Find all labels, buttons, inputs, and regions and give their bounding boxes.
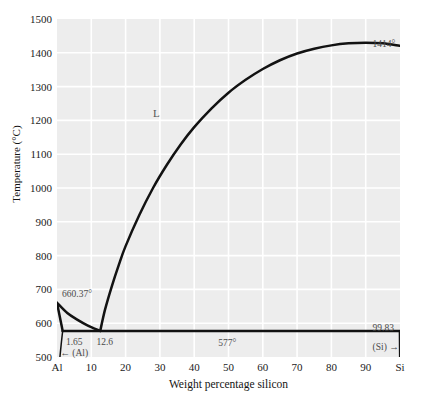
x-tick-50: 50: [223, 361, 234, 373]
y-tick-1400: 1400: [12, 47, 52, 59]
y-tick-1200: 1200: [12, 114, 52, 126]
y-axis-tick-labels: 500600700800900100011001200130014001500: [8, 19, 52, 357]
x-axis-tick-labels: Al102030405060708090Si: [57, 361, 400, 377]
curve-al-rich-liquidus: [57, 303, 100, 331]
x-axis-title: Weight percentage silicon: [57, 378, 400, 390]
x-tick-40: 40: [189, 361, 200, 373]
y-tick-900: 900: [12, 216, 52, 228]
x-tick-10: 10: [86, 361, 97, 373]
y-tick-1000: 1000: [12, 182, 52, 194]
x-tick-Si: Si: [395, 361, 404, 373]
phase-boundary-curves: [57, 19, 400, 357]
y-tick-1500: 1500: [12, 13, 52, 25]
y-tick-800: 800: [12, 250, 52, 262]
y-tick-600: 600: [12, 317, 52, 329]
y-tick-1100: 1100: [12, 148, 52, 160]
x-tick-70: 70: [292, 361, 303, 373]
y-tick-700: 700: [12, 283, 52, 295]
curve-al-solvus: [60, 331, 63, 357]
y-tick-1300: 1300: [12, 81, 52, 93]
x-tick-30: 30: [154, 361, 165, 373]
x-tick-60: 60: [257, 361, 268, 373]
plot-area: 660.37°1.6512.6← (Al)577°L1414°99.83(Si)…: [57, 19, 400, 357]
curve-si-rich-liquidus: [100, 43, 399, 331]
x-tick-80: 80: [326, 361, 337, 373]
x-tick-Al: Al: [52, 361, 63, 373]
x-tick-90: 90: [360, 361, 371, 373]
x-tick-20: 20: [120, 361, 131, 373]
y-tick-500: 500: [12, 351, 52, 363]
phase-diagram-figure: Temperature (°C) 50060070080090010001100…: [0, 0, 422, 412]
